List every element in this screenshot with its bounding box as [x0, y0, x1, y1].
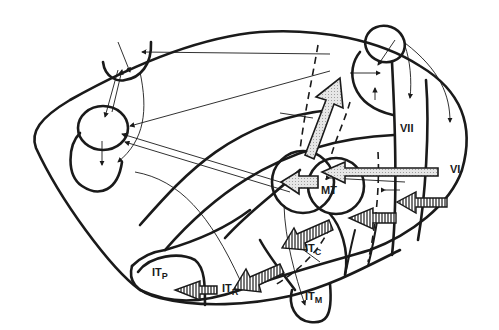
- area-left-upper: [78, 106, 128, 150]
- area-left-lower: [71, 133, 123, 191]
- label-mt: MT: [321, 184, 337, 196]
- sulcus-upper: [140, 110, 330, 225]
- label-it-c: ITC: [305, 242, 322, 257]
- arrow-mt-lower: [349, 208, 396, 229]
- area-it-c-boundary: [330, 214, 346, 275]
- vii-left-boundary: [392, 62, 395, 255]
- label-it-m: ITM: [305, 290, 322, 305]
- area-top-left: [103, 42, 151, 80]
- label-vi: VI: [450, 163, 460, 175]
- sulcus-middle: [165, 135, 394, 250]
- dashed-line-mid: [330, 102, 350, 160]
- arrow-vi-to-mt: [322, 162, 438, 183]
- vii-right-boundary: [418, 80, 427, 240]
- label-it-p: ITP: [152, 266, 168, 281]
- brain-outline: [34, 31, 466, 300]
- brain-diagram: VII VI MT ITP ITR ITC ITM: [0, 0, 499, 330]
- label-vii: VII: [400, 122, 413, 134]
